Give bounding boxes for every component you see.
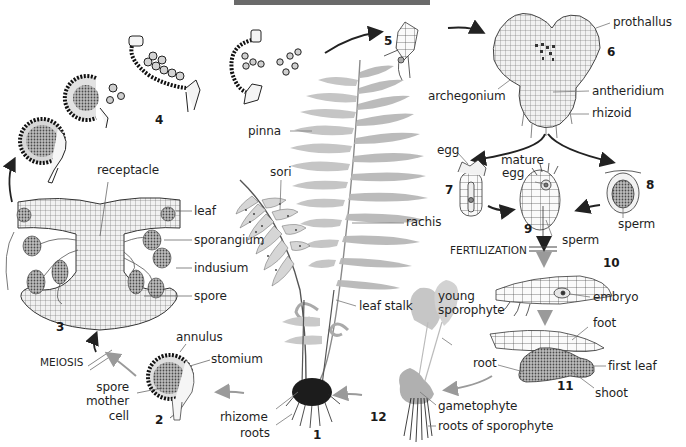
label-sporangium: sporangium	[194, 234, 264, 247]
stage-number-5: 5	[384, 34, 392, 48]
arrow-8-to-9	[578, 205, 600, 210]
label-spore-mother-cell-1: spore	[90, 381, 129, 394]
label-egg: egg	[437, 144, 459, 157]
label-annulus: annulus	[176, 331, 223, 344]
label-stomium: stomium	[211, 353, 263, 366]
label-leaf: leaf	[194, 205, 216, 218]
stage-number-6: 6	[607, 45, 615, 59]
label-pinna: pinna	[248, 125, 281, 138]
label-antheridium: antheridium	[592, 85, 664, 98]
label-fertilization: FERTILIZATION	[450, 244, 527, 257]
stage-number-3: 3	[56, 320, 64, 334]
label-sori: sori	[270, 166, 291, 179]
stage-2-sporangium	[137, 344, 210, 420]
stage-number-8: 8	[646, 178, 654, 192]
label-leaf-stalk: leaf stalk	[359, 300, 413, 313]
arrow-11-to-12	[446, 376, 492, 390]
label-first-leaf: first leaf	[608, 360, 657, 373]
label-meiosis: MEIOSIS	[40, 356, 83, 369]
label-embryo: embryo	[593, 291, 638, 304]
stage-1-mature-fern	[236, 60, 428, 428]
arrow-7-to-9	[488, 206, 512, 211]
arrow-1-to-2	[218, 392, 244, 393]
label-gametophyte: gametophyte	[438, 400, 517, 413]
stage-number-10: 10	[603, 256, 620, 270]
label-young-sporophyte-1: young	[438, 290, 475, 303]
label-spore-mother-cell-2: mother	[80, 395, 129, 408]
stage-8-antheridium	[605, 171, 641, 219]
label-roots: roots	[240, 427, 270, 440]
label-mature-egg-2: egg	[502, 167, 524, 180]
arrow-12-to-1	[336, 394, 362, 395]
label-rhizome: rhizome	[220, 411, 268, 424]
stage-number-9: 9	[524, 222, 532, 236]
label-young-sporophyte-2: sporophyte	[438, 304, 505, 317]
arrow-4-to-5	[325, 32, 380, 53]
label-sperm-8: sperm	[618, 218, 655, 231]
label-shoot: shoot	[595, 387, 628, 400]
label-sperm-9: sperm	[562, 234, 599, 247]
stage-4-sporangia	[20, 30, 301, 183]
label-spore: spore	[194, 290, 227, 303]
label-roots-of-sporophyte: roots of sporophyte	[438, 420, 553, 433]
stage-11-young-plant	[490, 327, 606, 388]
arrow-6-to-8	[548, 134, 612, 162]
stage-5-germinating-spore	[384, 22, 418, 80]
label-foot: foot	[593, 317, 616, 330]
label-indusium: indusium	[194, 262, 248, 275]
stage-number-11: 11	[557, 379, 574, 393]
stage-number-1: 1	[313, 428, 321, 442]
label-archegonium: archegonium	[428, 90, 506, 103]
stage-number-2: 2	[155, 413, 163, 427]
arrow-2-to-meiosis	[108, 354, 136, 376]
meiosis-bar	[88, 350, 114, 370]
stage-number-7: 7	[445, 183, 453, 197]
label-prothallus: prothallus	[613, 16, 672, 29]
label-rachis: rachis	[406, 216, 441, 229]
arrow-meiosis-to-3	[94, 334, 96, 352]
fern-life-cycle-diagram: 4 5 6 7 8 9 10 11 12 1 2 3 receptacle le…	[0, 0, 686, 447]
label-root: root	[473, 357, 497, 370]
arrow-3-to-4	[9, 160, 14, 202]
label-receptacle: receptacle	[97, 164, 159, 177]
stage-number-12: 12	[370, 410, 387, 424]
stage-3-sorus-section	[6, 182, 192, 330]
label-rhizoid: rhizoid	[592, 107, 632, 120]
label-spore-mother-cell-3: cell	[90, 410, 129, 423]
arrow-5-to-6	[448, 28, 482, 33]
stage-7-archegonium	[458, 153, 486, 216]
stage-number-4: 4	[155, 113, 163, 127]
